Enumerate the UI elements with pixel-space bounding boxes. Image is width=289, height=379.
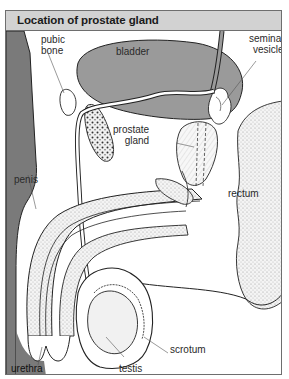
label-bladder: bladder (116, 46, 149, 57)
label-pubic-bone: pubic bone (41, 34, 65, 56)
label-rectum: rectum (228, 188, 259, 199)
label-seminal-vesicle: seminal vesicle (249, 33, 282, 55)
rectum-shape (236, 101, 282, 309)
pubic-bone-shape (60, 89, 76, 115)
label-penis: penis (14, 174, 38, 185)
title-bar: Location of prostate gland (6, 11, 281, 31)
label-testis: testis (119, 363, 142, 374)
diagram-title: Location of prostate gland (17, 14, 159, 26)
label-urethra: urethra (11, 363, 43, 374)
prostate-anatomy-illustration (6, 31, 282, 375)
label-prostate-gland: prostate gland (113, 124, 149, 146)
diagram-frame: Location of prostate gland (5, 10, 282, 375)
label-scrotum: scrotum (170, 344, 206, 355)
cavernous-body-shape (85, 104, 114, 161)
